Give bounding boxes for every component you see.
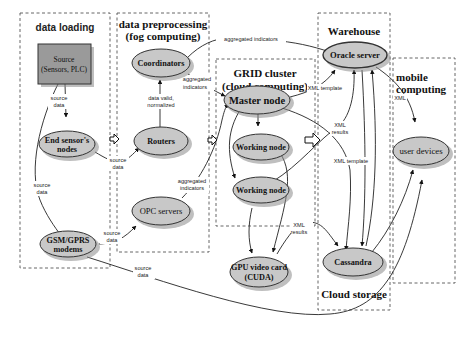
svg-text:XML template: XML template bbox=[308, 85, 342, 91]
svg-text:Oracle server: Oracle server bbox=[330, 50, 380, 60]
region-title-preprocessing-2: (fog computing) bbox=[126, 30, 201, 43]
node-oracle-server[interactable]: Oracle server bbox=[323, 42, 391, 72]
svg-text:Coordinators: Coordinators bbox=[138, 59, 185, 68]
svg-text:GSM/GPRS: GSM/GPRS bbox=[47, 236, 90, 245]
svg-text:Cassandra: Cassandra bbox=[334, 258, 371, 267]
svg-text:Working node: Working node bbox=[236, 186, 286, 195]
region-footer-cloud-storage: Cloud storage bbox=[321, 288, 387, 300]
node-user-devices[interactable]: user devices bbox=[393, 137, 453, 169]
node-working-2[interactable]: Working node bbox=[233, 177, 293, 207]
svg-text:XML: XML bbox=[394, 95, 406, 101]
svg-text:normalized: normalized bbox=[147, 102, 174, 108]
svg-text:data: data bbox=[37, 189, 49, 195]
node-working-1[interactable]: Working node bbox=[233, 134, 293, 164]
node-gpu-video-card[interactable]: GPU video card (CUDA) bbox=[230, 257, 292, 291]
svg-text:XML: XML bbox=[334, 122, 346, 128]
svg-text:OPC servers: OPC servers bbox=[140, 206, 183, 216]
svg-text:Working node: Working node bbox=[236, 143, 286, 152]
svg-text:data valid,: data valid, bbox=[148, 95, 174, 101]
architecture-diagram: data loading data preprocessing (fog com… bbox=[0, 0, 472, 340]
edge-label-source-data-5: source data bbox=[133, 264, 155, 279]
svg-text:user devices: user devices bbox=[399, 146, 443, 156]
svg-text:data: data bbox=[107, 237, 119, 243]
svg-text:data: data bbox=[138, 272, 150, 278]
svg-text:modems: modems bbox=[53, 245, 82, 254]
flow-arrow-icon bbox=[110, 134, 119, 144]
node-routers[interactable]: Routers bbox=[134, 127, 192, 159]
edge-label-xml-template-2: XML template bbox=[333, 157, 369, 165]
svg-text:source: source bbox=[51, 95, 68, 101]
node-end-sensor[interactable]: End sensor's nodes bbox=[39, 131, 99, 161]
edge-working2-to-gpu bbox=[249, 208, 252, 253]
svg-text:Source: Source bbox=[54, 55, 75, 64]
node-gsm-gprs[interactable]: GSM/GPRS modems bbox=[40, 231, 100, 261]
edge-label-xml-template-1: XML template bbox=[307, 84, 343, 92]
svg-text:Routers: Routers bbox=[147, 137, 175, 146]
edge-label-source-data-4: source data bbox=[100, 229, 122, 244]
edge-label-source-data-3: source data bbox=[107, 156, 129, 171]
svg-text:nodes: nodes bbox=[57, 145, 77, 154]
edge-label-data-valid: data valid, normalized bbox=[145, 94, 177, 109]
edge-label-aggregated-opc: aggregated indicators bbox=[175, 177, 209, 193]
edge-label-source-data-2: source data bbox=[30, 181, 52, 196]
svg-text:aggregated indicators: aggregated indicators bbox=[224, 36, 278, 42]
edge-label-xml-mobile: XML bbox=[393, 94, 407, 102]
svg-text:indicators: indicators bbox=[180, 185, 204, 191]
edge-label-source-data-1: source data bbox=[48, 94, 70, 109]
svg-text:results: results bbox=[332, 129, 349, 135]
svg-text:(Sensors, PLC): (Sensors, PLC) bbox=[41, 65, 87, 74]
edge-label-xml-results-2: XML results bbox=[291, 221, 313, 236]
region-title-preprocessing-1: data preprocessing bbox=[119, 18, 208, 30]
svg-text:GPU video card: GPU video card bbox=[231, 263, 287, 272]
svg-text:data: data bbox=[113, 164, 125, 170]
svg-text:data: data bbox=[54, 102, 66, 108]
node-source[interactable]: Source (Sensors, PLC) bbox=[38, 44, 94, 87]
svg-text:source: source bbox=[110, 157, 127, 163]
svg-text:aggregated: aggregated bbox=[183, 76, 211, 82]
node-opc-servers[interactable]: OPC servers bbox=[132, 197, 194, 229]
node-coordinators[interactable]: Coordinators bbox=[132, 49, 194, 81]
svg-text:(CUDA): (CUDA) bbox=[244, 273, 273, 282]
region-title-mobile-1: mobile bbox=[396, 71, 428, 83]
svg-text:XML: XML bbox=[293, 222, 305, 228]
svg-text:results: results bbox=[291, 229, 308, 235]
svg-text:aggregated: aggregated bbox=[178, 178, 206, 184]
svg-text:End sensor's: End sensor's bbox=[45, 136, 89, 145]
edge-label-aggregated-coord: aggregated indicators bbox=[180, 75, 214, 91]
svg-text:XML template: XML template bbox=[334, 158, 368, 164]
region-title-warehouse: Warehouse bbox=[328, 25, 380, 37]
svg-text:indicators: indicators bbox=[183, 84, 207, 90]
region-title-data-loading: data loading bbox=[36, 22, 95, 33]
svg-text:source: source bbox=[135, 265, 152, 271]
svg-text:Master node: Master node bbox=[229, 95, 285, 106]
edge-label-aggregated-top: aggregated indicators bbox=[216, 35, 286, 43]
svg-text:source: source bbox=[34, 182, 51, 188]
region-title-grid-1: GRID cluster bbox=[233, 67, 296, 79]
svg-text:source: source bbox=[104, 230, 121, 236]
node-cassandra[interactable]: Cassandra bbox=[323, 248, 387, 280]
edge-label-xml-results-1: XML results bbox=[330, 121, 352, 136]
